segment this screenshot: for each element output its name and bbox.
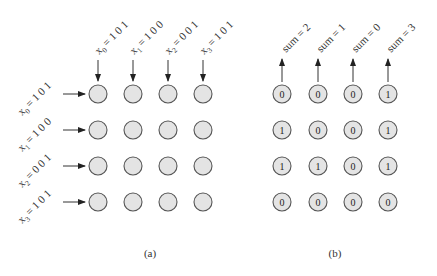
bit-value: 1	[386, 161, 391, 172]
svg-text:x3= 1 0 1: x3= 1 0 1	[15, 187, 55, 227]
svg-text:sum = 0: sum = 0	[349, 20, 383, 54]
sum-label-col0: sum = 2	[279, 21, 313, 55]
grid-node	[89, 121, 107, 139]
row-label-x2: x2= 0 0 1	[15, 151, 55, 191]
grid-node	[194, 121, 212, 139]
grid-node	[194, 193, 212, 211]
column-label-x2: x2= 0 0 1	[162, 18, 202, 58]
svg-text:x3= 1 0 1: x3= 1 0 1	[197, 18, 237, 58]
grid-node	[124, 193, 142, 211]
bit-value: 0	[351, 89, 356, 100]
svg-text:x1= 1 0 0: x1= 1 0 0	[15, 115, 56, 156]
svg-text:x1= 1 0 0: x1= 1 0 0	[127, 18, 168, 59]
bit-row-3: 0 0 0 0	[273, 193, 397, 211]
panel-a-node-grid	[89, 85, 212, 211]
panel-b-up-arrows	[282, 59, 388, 82]
bit-value: 0	[316, 125, 321, 136]
bit-value: 0	[280, 197, 285, 208]
panel-b-bit-grid: 0 0 0 1 1 0 0 1 1 1 0 1 0 0 0 0	[273, 85, 397, 211]
grid-node	[124, 85, 142, 103]
bit-row-0: 0 0 0 1	[273, 85, 397, 103]
svg-text:sum = 2: sum = 2	[279, 21, 313, 55]
panel-b-sum-labels: sum = 2 sum = 1 sum = 0 sum = 3	[279, 20, 418, 54]
bit-value: 0	[316, 197, 321, 208]
row-label-x3: x3= 1 0 1	[15, 187, 55, 227]
panel-a-column-labels: x0= 1 0 1 x1= 1 0 0 x2= 0 0 1 x3= 1 0 1	[92, 18, 237, 59]
grid-node	[159, 85, 177, 103]
grid-node	[159, 193, 177, 211]
grid-node	[159, 121, 177, 139]
grid-node	[89, 85, 107, 103]
grid-node	[194, 85, 212, 103]
svg-text:x0= 1 0 1: x0= 1 0 1	[15, 79, 55, 119]
panel-a-caption: (a)	[144, 247, 157, 260]
sum-label-col2: sum = 0	[349, 20, 383, 54]
bit-value: 0	[351, 161, 356, 172]
bit-row-2: 1 1 0 1	[273, 157, 397, 175]
bit-value: 0	[386, 197, 391, 208]
panel-b-caption: (b)	[329, 247, 342, 260]
bit-value: 1	[316, 161, 321, 172]
panel-a-row-labels: x0= 1 0 1 x1= 1 0 0 x2= 0 0 1 x3= 1 0 1	[15, 79, 56, 227]
panel-b: sum = 2 sum = 1 sum = 0 sum = 3 0 0	[273, 20, 418, 260]
grid-node	[194, 157, 212, 175]
bit-value: 1	[386, 89, 391, 100]
grid-node	[89, 157, 107, 175]
grid-node	[124, 157, 142, 175]
bit-value: 1	[386, 125, 391, 136]
sum-label-col1: sum = 1	[314, 21, 348, 55]
column-label-x1: x1= 1 0 0	[127, 18, 168, 59]
svg-text:sum = 3: sum = 3	[384, 20, 418, 54]
svg-text:x2= 0 0 1: x2= 0 0 1	[15, 151, 55, 191]
bit-value: 0	[351, 197, 356, 208]
diagram-canvas: x0= 1 0 1 x1= 1 0 0 x2= 0 0 1 x3= 1 0 1 …	[0, 0, 437, 276]
grid-node	[89, 193, 107, 211]
bit-row-1: 1 0 0 1	[273, 121, 397, 139]
panel-a-column-arrows	[98, 60, 203, 81]
panel-a: x0= 1 0 1 x1= 1 0 0 x2= 0 0 1 x3= 1 0 1 …	[15, 18, 237, 260]
svg-text:x2= 0 0 1: x2= 0 0 1	[162, 18, 202, 58]
panel-a-row-arrows	[63, 94, 85, 202]
bit-value: 0	[280, 89, 285, 100]
svg-text:sum = 1: sum = 1	[314, 21, 348, 55]
row-label-x0: x0= 1 0 1	[15, 79, 55, 119]
bit-value: 0	[316, 89, 321, 100]
grid-node	[159, 157, 177, 175]
bit-value: 1	[280, 161, 285, 172]
svg-text:x0= 1 0 1: x0= 1 0 1	[92, 18, 132, 58]
sum-label-col3: sum = 3	[384, 20, 418, 54]
column-label-x0: x0= 1 0 1	[92, 18, 132, 58]
column-label-x3: x3= 1 0 1	[197, 18, 237, 58]
grid-node	[124, 121, 142, 139]
bit-value: 1	[280, 125, 285, 136]
bit-value: 0	[351, 125, 356, 136]
row-label-x1: x1= 1 0 0	[15, 115, 56, 156]
